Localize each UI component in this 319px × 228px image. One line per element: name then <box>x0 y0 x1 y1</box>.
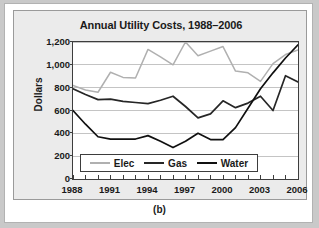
x-tick-label: 2003 <box>243 184 277 195</box>
series-line-water <box>73 45 298 148</box>
y-tick-label: 200 <box>36 151 70 160</box>
legend-swatch-gas-icon <box>144 162 164 164</box>
x-axis-tick-labels: 1988199119941997200020032006 <box>72 183 299 199</box>
y-tick-label: 1,000 <box>36 60 70 69</box>
x-tick-label: 2006 <box>280 184 314 195</box>
y-tick-label: 400 <box>36 128 70 137</box>
legend-label: Gas <box>168 158 187 169</box>
figure-caption: (b) <box>5 204 314 215</box>
x-tick-label: 1988 <box>55 184 89 195</box>
chart-panel: Annual Utility Costs, 1988–2006 Dollars … <box>13 10 307 200</box>
series-line-gas <box>73 76 298 118</box>
y-tick-label: 0 <box>36 174 70 183</box>
figure-frame: Annual Utility Costs, 1988–2006 Dollars … <box>4 3 313 223</box>
legend-item-water: Water <box>197 158 248 169</box>
y-tick-label: 800 <box>36 83 70 92</box>
legend-swatch-water-icon <box>197 162 217 164</box>
y-tick-label: 600 <box>36 106 70 115</box>
y-tick-label: 1,200 <box>36 37 70 46</box>
legend-item-elec: Elec <box>90 158 135 169</box>
x-tick-label: 1997 <box>168 184 202 195</box>
legend-item-gas: Gas <box>144 158 187 169</box>
legend-swatch-elec-icon <box>90 162 110 164</box>
legend-label: Water <box>221 158 248 169</box>
x-tick-label: 2000 <box>205 184 239 195</box>
y-axis-tick-labels: 1,2001,0008006004002000 <box>32 11 70 201</box>
x-tick-label: 1994 <box>130 184 164 195</box>
x-tick-label: 1991 <box>93 184 127 195</box>
chart-legend: ElecGasWater <box>80 154 258 172</box>
legend-label: Elec <box>114 158 135 169</box>
